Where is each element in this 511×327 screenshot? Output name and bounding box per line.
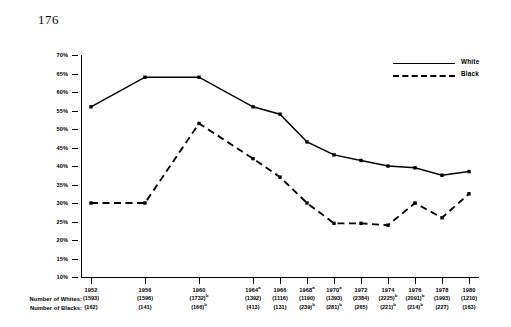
y-axis-tick-label: 55% [57,108,69,114]
y-axis-tick [72,74,78,75]
y-axis-tick-label: 45% [57,145,69,151]
plot-area [81,55,479,277]
x-axis-tick [361,277,362,284]
data-point-marker [413,166,416,169]
y-axis-tick-label: 70% [57,52,69,58]
data-point-marker [89,201,92,204]
x-axis-tick [307,277,308,284]
data-point-marker [89,105,92,108]
y-axis-labels: 70%65%60%55%50%45%40%35%30%25%20%15%10% [0,55,78,277]
page-number: 176 [38,12,59,28]
data-point-marker [413,201,416,204]
y-axis-tick-label: 15% [57,256,69,262]
data-point-marker [251,105,254,108]
legend-label-white: White [461,58,479,65]
data-point-marker [467,170,470,173]
whites-count-cell: (1210) [446,294,492,303]
y-axis-tick-label: 20% [57,237,69,243]
series-line-black [91,123,469,225]
blacks-count-cell: (166)b [176,303,222,312]
x-axis-tick [388,277,389,284]
count-footnote-marker: b [206,293,209,298]
y-axis-tick [72,166,78,167]
data-point-marker [386,224,389,227]
data-point-marker [143,201,146,204]
y-axis-tick [72,259,78,260]
x-axis-tick [415,277,416,284]
data-point-marker [440,174,443,177]
y-axis-tick [72,203,78,204]
y-axis-tick [72,277,78,278]
whites-count-cell: (1732)b [176,294,222,303]
chart-series-svg [81,55,479,277]
x-axis-tick [280,277,281,284]
legend-item-black: Black [393,70,505,82]
data-point-marker [305,201,308,204]
y-axis-tick [72,148,78,149]
y-axis-tick-label: 50% [57,126,69,132]
x-axis-label-column: 1956(1596)(141) [122,286,168,312]
blacks-count-cell: (141) [122,303,168,312]
data-point-marker [467,192,470,195]
data-point-marker [278,175,281,178]
legend: White Black [393,58,505,82]
x-axis-year-label: 1980 [446,286,492,294]
y-axis-tick-label: 25% [57,219,69,225]
data-point-marker [386,164,389,167]
series-line-white [91,77,469,175]
data-point-marker [305,140,308,143]
y-axis-tick [72,185,78,186]
x-axis-year-label: 1952 [68,286,114,294]
data-point-marker [197,76,200,79]
data-point-marker [251,157,254,160]
y-axis-tick [72,111,78,112]
y-axis-tick [72,92,78,93]
x-axis-labels: 1952(1593)(162)1956(1596)(141)1960(1732)… [81,286,479,326]
data-point-marker [143,76,146,79]
y-axis-tick-label: 60% [57,89,69,95]
y-axis-tick-label: 10% [57,274,69,280]
data-point-marker [278,113,281,116]
count-footnote-marker: b [204,302,207,307]
x-axis-label-column: 1980(1210)(163) [446,286,492,312]
data-point-marker [332,222,335,225]
x-axis-label-column: 1960(1732)b(166)b [176,286,222,312]
y-axis-tick [72,129,78,130]
y-axis-tick [72,222,78,223]
blacks-count-cell: (162) [68,303,114,312]
y-axis-tick-label: 40% [57,163,69,169]
y-axis-tick-label: 30% [57,200,69,206]
x-axis-tick [469,277,470,284]
x-axis-tick [253,277,254,284]
x-axis-year-label: 1956 [122,286,168,294]
x-axis-tick [442,277,443,284]
legend-item-white: White [393,58,505,70]
x-axis-ticks [81,277,479,285]
data-point-marker [359,222,362,225]
data-point-marker [332,153,335,156]
x-axis-year-label: 1960 [176,286,222,294]
blacks-count-cell: (163) [446,303,492,312]
legend-label-black: Black [461,70,479,77]
x-axis-label-column: 1952(1593)(162) [68,286,114,312]
x-axis-tick [334,277,335,284]
x-axis-tick [91,277,92,284]
whites-count-cell: (1596) [122,294,168,303]
y-axis-tick-label: 35% [57,182,69,188]
data-point-marker [197,122,200,125]
y-axis-tick-label: 65% [57,71,69,77]
legend-swatch-black [393,75,455,77]
x-axis-tick [199,277,200,284]
y-axis-tick [72,240,78,241]
x-axis-tick [145,277,146,284]
whites-count-cell: (1593) [68,294,114,303]
data-point-marker [440,216,443,219]
data-point-marker [359,159,362,162]
y-axis-tick [72,55,78,56]
legend-swatch-white [393,63,455,64]
